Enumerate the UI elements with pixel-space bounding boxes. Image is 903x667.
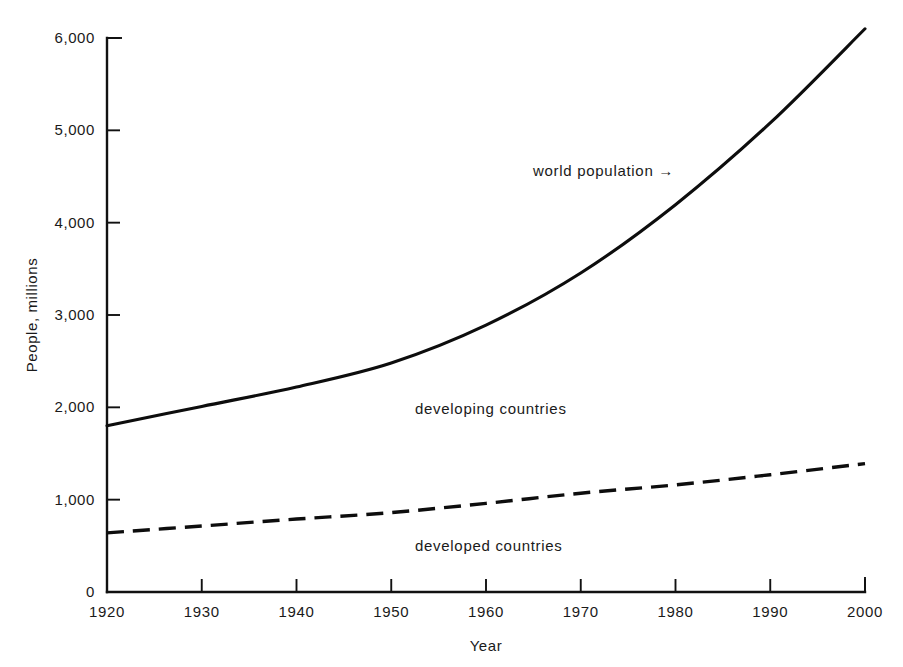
series-line-developed-countries: [107, 464, 865, 533]
chart-canvas: 01,0002,0003,0004,0005,0006,000 19201930…: [0, 0, 903, 667]
chart-series: [107, 29, 865, 533]
y-tick-label-0: 0: [86, 583, 95, 600]
annotation-developing-countries: developing countries: [415, 400, 567, 417]
y-tick-label-6000: 6,000: [54, 29, 95, 46]
population-chart: 01,0002,0003,0004,0005,0006,000 19201930…: [0, 0, 903, 667]
y-tick-label-5000: 5,000: [54, 121, 95, 138]
chart-annotations: world population → developing countries …: [415, 162, 674, 554]
y-axis-title: People, millions: [23, 258, 40, 373]
x-tick-label-1980: 1980: [658, 603, 694, 620]
series-line-world-population: [107, 29, 865, 426]
x-tick-label-1950: 1950: [373, 603, 409, 620]
y-tick-label-2000: 2,000: [54, 398, 95, 415]
annotation-developed-countries: developed countries: [415, 537, 563, 554]
x-tick-label-1960: 1960: [468, 603, 504, 620]
x-tick-label-1990: 1990: [752, 603, 788, 620]
chart-axes: [107, 38, 865, 592]
x-tick-label-1940: 1940: [279, 603, 315, 620]
x-tick-label-1920: 1920: [89, 603, 125, 620]
x-tick-label-1970: 1970: [563, 603, 599, 620]
y-axis-ticks: [107, 38, 120, 592]
x-axis-tick-labels: 192019301940195019601970198019902000: [89, 603, 883, 620]
x-tick-label-2000: 2000: [847, 603, 883, 620]
annotation-world-population: world population →: [532, 162, 674, 179]
y-tick-label-3000: 3,000: [54, 306, 95, 323]
x-tick-label-1930: 1930: [184, 603, 220, 620]
x-axis-ticks: [107, 579, 865, 592]
x-axis-title: Year: [470, 637, 503, 654]
y-tick-label-1000: 1,000: [54, 491, 95, 508]
y-tick-label-4000: 4,000: [54, 214, 95, 231]
y-axis-tick-labels: 01,0002,0003,0004,0005,0006,000: [54, 29, 95, 600]
